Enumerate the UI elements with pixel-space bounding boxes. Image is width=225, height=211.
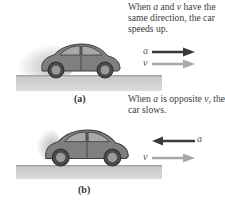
caption-text: When bbox=[128, 93, 153, 104]
panel-label-b: (b) bbox=[78, 184, 90, 195]
caption-text: is opposite bbox=[158, 93, 204, 104]
vector-label-v: v bbox=[143, 57, 147, 68]
caption-text: and bbox=[158, 1, 177, 12]
caption-text: When bbox=[128, 1, 153, 12]
acceleration-arrow-left-icon bbox=[151, 136, 196, 146]
velocity-arrow-right-icon bbox=[151, 153, 196, 163]
vector-label-v: v bbox=[143, 151, 147, 162]
panel-b: When a is opposite v, the car slows. a v… bbox=[0, 100, 225, 211]
ground-strip bbox=[16, 165, 162, 179]
velocity-arrow-right-icon bbox=[151, 59, 196, 69]
vector-label-a: a bbox=[143, 45, 148, 56]
car-icon bbox=[38, 43, 122, 79]
panel-a: When a and v have the same direction, th… bbox=[0, 0, 225, 105]
acceleration-arrow-right-icon bbox=[151, 47, 196, 57]
caption-a: When a and v have the same direction, th… bbox=[128, 1, 225, 34]
vector-label-a: a bbox=[197, 133, 202, 144]
car-icon bbox=[40, 129, 132, 167]
caption-b: When a is opposite v, the car slows. bbox=[128, 93, 225, 115]
